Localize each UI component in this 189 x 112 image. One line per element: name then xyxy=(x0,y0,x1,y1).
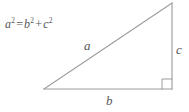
equation-plus-sign: + xyxy=(34,17,43,31)
base-label-b: b xyxy=(106,94,113,107)
pythagorean-equation: a2=b2+c2 xyxy=(5,18,53,30)
pythagorean-theorem-figure: a2=b2+c2 a b c xyxy=(0,0,189,112)
hypotenuse-label-a: a xyxy=(84,39,91,52)
equation-equals-sign: = xyxy=(15,17,24,31)
vertical-leg-label-c: c xyxy=(176,43,182,56)
hypotenuse-line-a xyxy=(44,3,172,89)
equation-exponent-c: 2 xyxy=(49,16,53,25)
right-angle-marker-icon xyxy=(162,79,172,89)
